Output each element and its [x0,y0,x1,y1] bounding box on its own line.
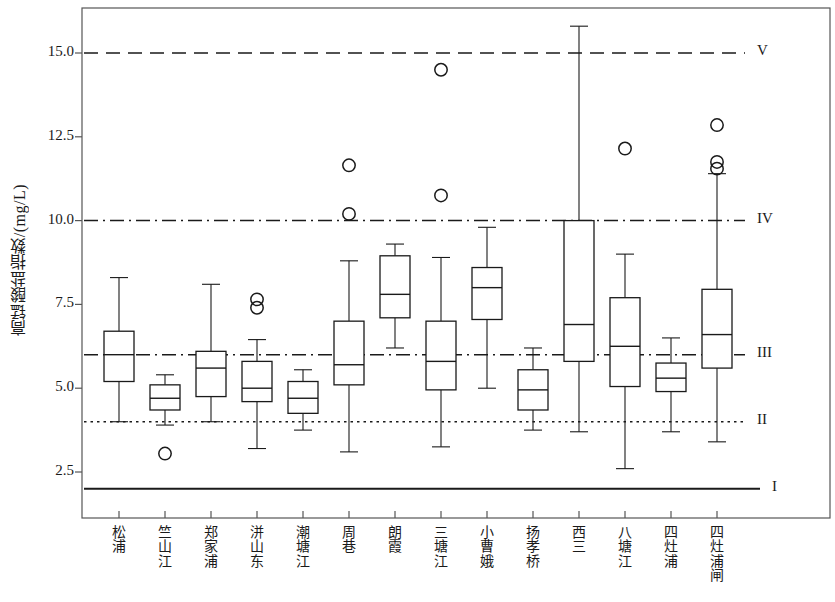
x-category-label: 四灶浦 [660,526,682,569]
boxplot-item [150,375,180,460]
x-category-label: 松浦 [108,526,130,555]
class-label-II: II [757,411,783,428]
x-category-label: 小曹娥 [476,526,498,569]
y-tick-label: 5.0 [26,378,74,395]
boxplot-item [702,119,732,442]
class-label-V: V [757,42,783,59]
boxplot-item [426,64,456,447]
chart-canvas [0,0,835,602]
outlier-point [711,119,723,131]
boxplot-item [242,293,272,448]
boxplot-item [610,142,640,468]
box-iqr [334,321,364,385]
outlier-point [343,159,355,171]
x-category-label: 三塘江 [430,526,452,569]
x-category-label: 周巷 [338,526,360,555]
outlier-point [435,64,447,76]
box-iqr [196,351,226,396]
x-category-label: 西三 [568,526,590,555]
boxplot-item [104,278,134,422]
outlier-point [619,142,631,154]
box-iqr [610,298,640,387]
y-axis-ticks [75,53,82,472]
box-iqr [656,363,686,391]
x-category-label: 洴山东 [246,526,268,569]
y-tick-label: 12.5 [26,127,74,144]
x-category-label: 朗霞 [384,526,406,555]
box-iqr [104,331,134,381]
outlier-point [343,208,355,220]
boxplot-item [656,338,686,432]
y-tick-label: 2.5 [26,462,74,479]
box-iqr [702,289,732,368]
threshold-lines [84,53,760,489]
box-iqr [150,385,180,410]
boxplot-item [196,284,226,421]
boxplot-item [518,348,548,430]
box-series [104,26,732,468]
x-category-label: 四灶浦闸 [706,526,728,583]
x-category-label: 郑家浦 [200,526,222,569]
y-tick-label: 15.0 [26,43,74,60]
x-category-label: 潮塘江 [292,526,314,569]
x-category-label: 竺山江 [154,526,176,569]
boxplot-item [564,26,594,432]
x-category-label: 八塘江 [614,526,636,569]
outlier-point [251,302,263,314]
boxplot-chart: 高锰酸盐指数/(mg/L) 2.55.07.510.012.515.0 松浦竺山… [0,0,835,602]
class-label-IV: IV [757,210,783,227]
class-label-I: I [772,478,798,495]
box-iqr [564,221,594,362]
boxplot-item [334,159,364,452]
outlier-point [435,189,447,201]
x-category-label: 扬孝桥 [522,526,544,569]
boxplot-item [472,227,502,388]
box-iqr [380,256,410,318]
box-iqr [426,321,456,390]
box-iqr [242,361,272,401]
box-iqr [472,268,502,320]
x-axis-ticks [119,511,717,518]
box-iqr [288,381,318,413]
outlier-point [159,447,171,459]
class-label-III: III [757,344,783,361]
y-tick-label: 10.0 [26,211,74,228]
boxplot-item [380,244,410,348]
y-tick-label: 7.5 [26,294,74,311]
